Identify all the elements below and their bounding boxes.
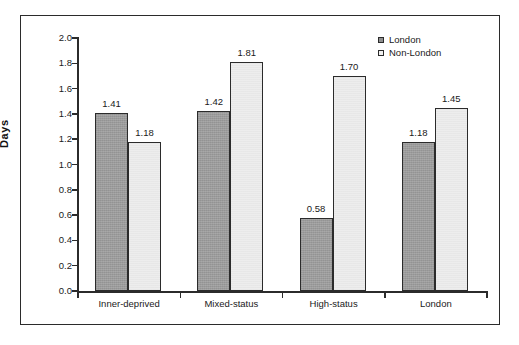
bar-value-label: 1.41 xyxy=(92,98,132,109)
bar-london-high-status xyxy=(300,218,333,291)
bar-value-label: 1.70 xyxy=(329,61,369,72)
y-axis-tick-label-wrap: 0.6 xyxy=(40,210,72,220)
x-axis-tick xyxy=(486,291,488,298)
chart-figure: Days 2.01.81.61.41.21.00.80.60.40.20.0 1… xyxy=(0,0,519,345)
plot-area: 1.411.181.421.810.581.701.181.45 xyxy=(78,38,487,291)
y-axis-tick-label-wrap: 2.0 xyxy=(40,33,72,43)
y-axis-tick-label-wrap: 0.2 xyxy=(40,261,72,271)
y-axis-tick-label-wrap: 1.4 xyxy=(40,109,72,119)
y-axis-tick-label: 1.4 xyxy=(46,109,72,119)
legend-item-non-london: Non-London xyxy=(378,46,441,59)
y-axis-tick-label-wrap: 1.8 xyxy=(40,58,72,68)
y-axis-tick-label-wrap: 0.8 xyxy=(40,185,72,195)
y-axis-tick-label: 1.8 xyxy=(46,58,72,68)
bar-non-london-mixed-status xyxy=(230,62,263,291)
bar-non-london-london xyxy=(435,108,468,291)
y-axis-tick-label: 0.0 xyxy=(46,286,72,296)
y-axis-tick-label: 0.4 xyxy=(46,235,72,245)
bar-london-inner-deprived xyxy=(95,113,128,291)
chart-legend: LondonNon-London xyxy=(378,33,441,59)
x-axis-category-label: High-status xyxy=(283,298,385,309)
legend-label: Non-London xyxy=(389,48,441,58)
london-swatch-icon xyxy=(378,37,384,43)
bar-london-mixed-status xyxy=(197,111,230,291)
x-axis-category-label: Mixed-status xyxy=(180,298,282,309)
bar-value-label: 1.45 xyxy=(431,93,471,104)
y-axis-tick-label-wrap: 0.0 xyxy=(40,286,72,296)
x-axis-tick xyxy=(77,291,79,298)
y-axis-tick-label: 0.2 xyxy=(46,261,72,271)
bar-value-label: 1.42 xyxy=(194,96,234,107)
y-axis-tick-label-wrap: 0.4 xyxy=(40,235,72,245)
x-axis-tick xyxy=(180,291,182,298)
legend-item-london: London xyxy=(378,33,441,46)
y-axis-tick-label-wrap: 1.6 xyxy=(40,84,72,94)
legend-label: London xyxy=(389,35,421,45)
non-london-swatch-icon xyxy=(378,50,384,56)
x-axis-tick xyxy=(384,291,386,298)
y-axis-tick-label: 1.0 xyxy=(46,160,72,170)
x-axis-tick xyxy=(282,291,284,298)
x-axis-category-label: Inner-deprived xyxy=(78,298,180,309)
x-axis-category-label: London xyxy=(385,298,487,309)
y-axis-tick-label-wrap: 1.2 xyxy=(40,134,72,144)
bar-non-london-high-status xyxy=(333,76,366,291)
bar-value-label: 1.81 xyxy=(227,47,267,58)
bar-value-label: 0.58 xyxy=(296,203,336,214)
bar-value-label: 1.18 xyxy=(125,127,165,138)
bar-value-label: 1.18 xyxy=(398,127,438,138)
y-axis-title: Days xyxy=(0,119,10,148)
y-axis-tick-label: 0.6 xyxy=(46,210,72,220)
y-axis-tick-label-wrap: 1.0 xyxy=(40,160,72,170)
bar-london-london xyxy=(402,142,435,291)
y-axis-tick-label: 1.2 xyxy=(46,134,72,144)
y-axis-tick-label: 0.8 xyxy=(46,185,72,195)
y-axis-tick-label: 1.6 xyxy=(46,84,72,94)
bar-non-london-inner-deprived xyxy=(128,142,161,291)
y-axis-tick-label: 2.0 xyxy=(46,33,72,43)
